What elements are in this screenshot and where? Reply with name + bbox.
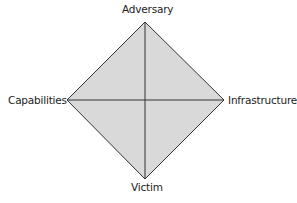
node-label-adversary: Adversary bbox=[122, 3, 173, 15]
node-label-capabilities: Capabilities bbox=[8, 94, 67, 106]
node-label-victim: Victim bbox=[131, 181, 163, 193]
node-label-infrastructure: Infrastructure bbox=[228, 94, 297, 106]
